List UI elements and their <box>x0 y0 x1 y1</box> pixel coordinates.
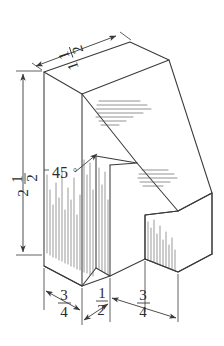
edge-base-left <box>44 266 96 286</box>
dimension-bottom-right-width: 3 4 <box>112 287 176 320</box>
object-outline <box>44 42 212 286</box>
dim-bl-denominator: 4 <box>60 304 68 320</box>
edge-slot-top-rim <box>96 156 137 165</box>
dim-br-denominator: 4 <box>139 304 147 320</box>
dimension-slot-width: 1 2 <box>84 285 108 320</box>
dimension-bottom-left-width: 3 4 <box>46 287 80 320</box>
dim-slot-denominator: 2 <box>97 302 105 318</box>
ext-line-top-right <box>120 32 131 40</box>
edge-inclined-face <box>137 60 212 211</box>
hatch-right-block <box>148 220 175 271</box>
edge-base-right <box>145 254 212 272</box>
dimension-top-depth: 1 1 2 <box>32 32 131 74</box>
edge-right-block <box>145 193 212 272</box>
hatch-front-left <box>47 172 80 270</box>
edge-front-right-face <box>145 211 178 259</box>
isometric-technical-drawing: 1 1 2 2 1 2 45 ° <box>0 0 224 346</box>
dim-height-whole: 2 <box>15 189 31 197</box>
edge-left-incline <box>82 94 137 163</box>
angle-degree-symbol: ° <box>73 167 77 178</box>
dim-bl-numerator: 3 <box>60 287 68 303</box>
edge-top-face <box>44 42 169 94</box>
leader-arrow-angle <box>75 154 97 172</box>
annotation-angle-45: 45 ° <box>44 154 97 181</box>
dim-top-denominator: 2 <box>69 43 87 55</box>
dimension-overall-height: 2 1 2 <box>9 71 42 255</box>
dim-br-numerator: 3 <box>139 287 147 303</box>
shading-lower-face <box>138 170 177 186</box>
edge-slot-bottom <box>110 259 145 276</box>
dim-height-numerator: 1 <box>9 175 25 183</box>
angle-value: 45 <box>52 164 68 181</box>
dim-slot-numerator: 1 <box>98 285 106 301</box>
dim-height-denominator: 2 <box>24 174 40 182</box>
